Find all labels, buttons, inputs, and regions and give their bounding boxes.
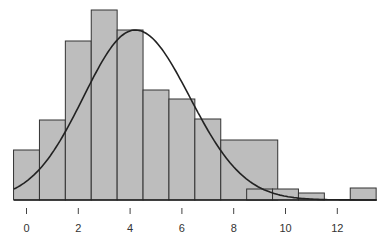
- histogram-bar: [14, 150, 40, 200]
- histogram-bar: [117, 30, 143, 200]
- histogram-bar: [65, 41, 91, 200]
- x-tick-label: 0: [23, 222, 29, 234]
- histogram-chart: 024681012: [0, 0, 388, 247]
- histogram-bar: [169, 99, 195, 200]
- histogram-bar: [39, 120, 65, 200]
- histogram-bar: [91, 10, 117, 200]
- x-tick-label: 12: [331, 222, 343, 234]
- histogram-bar: [350, 188, 376, 200]
- histogram-bar: [143, 90, 169, 200]
- x-axis-ticks: 024681012: [23, 208, 343, 234]
- x-tick-label: 6: [179, 222, 185, 234]
- x-tick-label: 2: [75, 222, 81, 234]
- x-tick-label: 8: [231, 222, 237, 234]
- x-tick-label: 10: [279, 222, 291, 234]
- x-tick-label: 4: [127, 222, 133, 234]
- histogram-bar: [247, 189, 273, 200]
